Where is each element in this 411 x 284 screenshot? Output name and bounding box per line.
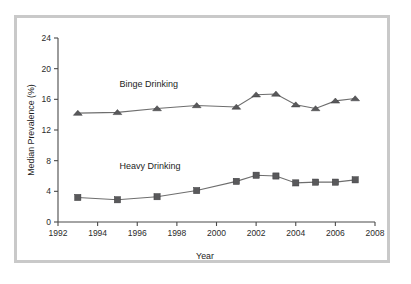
y-axis-title: Median Prevalence (%) (26, 84, 36, 176)
data-point-marker (194, 187, 200, 193)
x-tick-label: 1992 (49, 228, 68, 238)
y-axis: 04812162024 (42, 33, 58, 227)
series-annotation-label: Binge Drinking (119, 79, 178, 89)
x-tick-group: 199219941996199820002002200420062008 (49, 222, 385, 238)
x-tick-label: 2006 (326, 228, 345, 238)
series-annotation-label: Heavy Drinking (119, 161, 180, 171)
y-tick-label: 24 (42, 33, 52, 43)
data-point-marker (352, 177, 358, 183)
y-tick-label: 16 (42, 94, 52, 104)
annotation-layer: Binge DrinkingHeavy Drinking (119, 79, 180, 171)
series-binge-drinking (73, 91, 359, 115)
figure-root: 04812162024 1992199419961998200020022004… (0, 0, 411, 284)
data-point-marker (273, 173, 279, 179)
series-layer (73, 91, 359, 203)
data-point-marker (154, 194, 160, 200)
x-tick-label: 1996 (128, 228, 147, 238)
data-point-marker (351, 96, 360, 101)
x-tick-label: 1994 (88, 228, 107, 238)
data-point-marker (233, 178, 239, 184)
y-tick-label: 20 (42, 64, 52, 74)
x-tick-label: 2008 (366, 228, 385, 238)
x-tick-label: 1998 (167, 228, 186, 238)
x-axis: 199219941996199820002002200420062008 (49, 222, 385, 238)
line-chart: 04812162024 1992199419961998200020022004… (0, 0, 411, 284)
data-point-marker (75, 194, 81, 200)
x-tick-label: 2004 (286, 228, 305, 238)
y-tick-group: 04812162024 (42, 33, 58, 227)
x-tick-label: 2000 (207, 228, 226, 238)
series-heavy-drinking (75, 172, 359, 203)
y-tick-label: 4 (46, 186, 51, 196)
y-tick-label: 0 (46, 217, 51, 227)
x-axis-title: Year (196, 251, 214, 261)
data-point-marker (253, 172, 259, 178)
data-point-marker (312, 179, 318, 185)
data-point-marker (293, 180, 299, 186)
data-point-marker (114, 197, 120, 203)
y-tick-label: 12 (42, 125, 52, 135)
y-tick-label: 8 (46, 156, 51, 166)
x-tick-label: 2002 (247, 228, 266, 238)
data-point-marker (332, 179, 338, 185)
